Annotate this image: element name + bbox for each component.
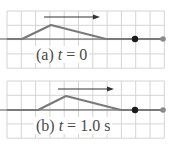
arrowhead-icon: [93, 15, 100, 20]
string-end-dot: [160, 107, 166, 113]
caption-value: = 1.0 s: [63, 117, 110, 134]
panel-a-caption: (a) t = 0: [34, 46, 89, 63]
panel-b-caption: (b) t = 1.0 s: [34, 117, 112, 134]
caption-prefix: (b): [36, 117, 59, 134]
arrowhead-icon: [107, 87, 114, 92]
caption-value: = 0: [62, 46, 87, 63]
marker-dot: [132, 36, 138, 42]
caption-prefix: (a): [36, 46, 58, 63]
triangular-pulse: [7, 25, 106, 39]
marker-dot: [132, 107, 138, 113]
string-end-dot: [160, 36, 166, 42]
